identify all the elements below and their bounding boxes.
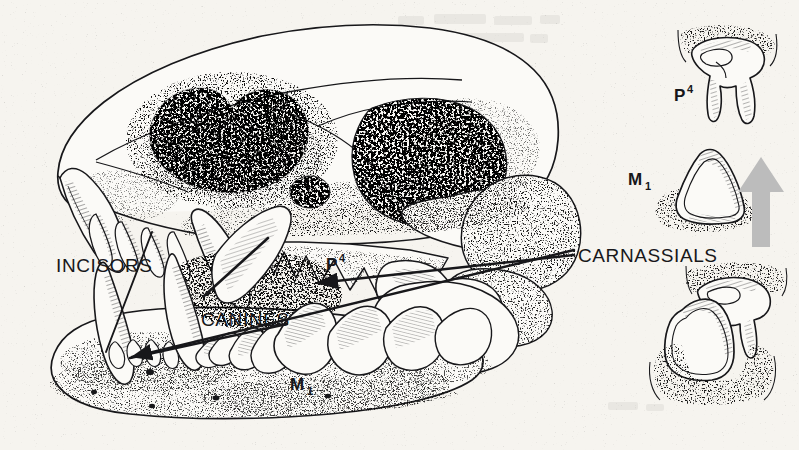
label-m1-letter: M [290, 375, 305, 394]
inset-p4-letter: P [674, 86, 686, 105]
label-p4-letter: P [326, 255, 338, 274]
label-carnassials: CARNASSIALS [578, 245, 718, 266]
skull-dentition-figure: INCISORS CANINES CARNASSIALS P 4 M 1 P 4 [0, 0, 799, 450]
label-canines: CANINES [201, 309, 290, 330]
inset-p4-superscript: 4 [687, 83, 694, 95]
inset-m1-subscript: 1 [645, 180, 652, 192]
label-incisors: INCISORS [56, 255, 153, 276]
lower-molars [328, 306, 492, 375]
skull-illustration-svg: INCISORS CANINES CARNASSIALS P 4 M 1 P 4 [0, 0, 799, 450]
label-m1-subscript: 1 [307, 385, 314, 397]
label-p4-superscript: 4 [339, 252, 346, 264]
inset-m1-letter: M [628, 170, 643, 189]
